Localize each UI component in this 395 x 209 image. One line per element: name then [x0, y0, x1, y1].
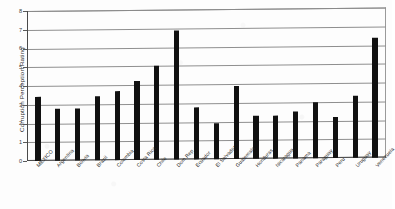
x-label-slot: Guatemala [226, 162, 246, 209]
x-label-slot: El Salvador [206, 162, 226, 209]
bar [174, 30, 179, 159]
x-label-slot: Argentina [47, 162, 67, 209]
bar [214, 124, 219, 160]
y-axis-tick-label: 5 [10, 64, 22, 70]
y-axis-tick-label: 4 [10, 83, 22, 89]
plot-area [27, 8, 386, 161]
y-axis-tick-label: 0 [10, 158, 22, 164]
x-label-slot: Uruguay [346, 162, 366, 209]
x-label-slot: MEXICO [27, 162, 47, 209]
bar [55, 108, 60, 161]
y-axis-tick-label: 2 [10, 120, 22, 126]
x-label-slot: Honduras [246, 162, 266, 209]
x-label-slot: Panama [286, 162, 306, 209]
bar-slot [48, 11, 68, 161]
x-label-slot: Venezuela [366, 162, 386, 209]
bar [313, 102, 318, 158]
y-axis-tick-label: 7 [10, 27, 22, 33]
y-axis-title: Corruption Perception Rating [18, 22, 25, 158]
x-label-slot: Peru [326, 162, 346, 209]
bar [134, 81, 139, 160]
bar-slot [68, 10, 88, 160]
x-label-slot: Chile [147, 162, 167, 209]
y-axis-tick-label: 8 [10, 8, 22, 14]
x-label-slot: Brazil [87, 162, 107, 209]
bar-slot [28, 11, 48, 161]
bar-slot [127, 10, 147, 160]
x-label-slot: Ecuador [187, 162, 207, 209]
bar-series [27, 8, 386, 161]
bar [35, 97, 40, 161]
bar [353, 96, 358, 158]
bar-slot [206, 9, 226, 159]
y-axis-tick-label: 3 [10, 102, 22, 108]
x-label-slot: Colombia [107, 162, 127, 209]
x-axis-tick-labels: MEXICOArgentinaBoliviaBrazilColombiaCost… [27, 162, 386, 209]
bar [95, 97, 100, 161]
x-label-slot: Bolivia [67, 162, 87, 209]
x-label-slot: Nicaragua [266, 162, 286, 209]
bar [75, 108, 80, 161]
bar-slot [87, 10, 107, 160]
bar-slot [266, 9, 286, 159]
x-label-slot: Costa Rica [127, 162, 147, 209]
x-label-slot: Paraguay [306, 162, 326, 209]
bar-slot [167, 9, 187, 159]
bar [253, 116, 258, 159]
bar [154, 66, 159, 160]
bar-slot [345, 8, 365, 158]
bar-slot [246, 9, 266, 159]
bar-slot [147, 10, 167, 160]
y-axis-tick-label: 6 [10, 45, 22, 51]
bar-slot [306, 8, 326, 158]
bar-slot [226, 9, 246, 159]
bar-slot [286, 8, 306, 158]
bar [273, 115, 278, 158]
bar-slot [365, 8, 385, 158]
bar-slot [107, 10, 127, 160]
bar [372, 38, 377, 158]
bar-slot [325, 8, 345, 158]
bar [115, 91, 120, 160]
x-label-slot: Dom Rep [167, 162, 187, 209]
y-axis-tick-label: 1 [10, 139, 22, 145]
bar-slot [187, 9, 207, 159]
